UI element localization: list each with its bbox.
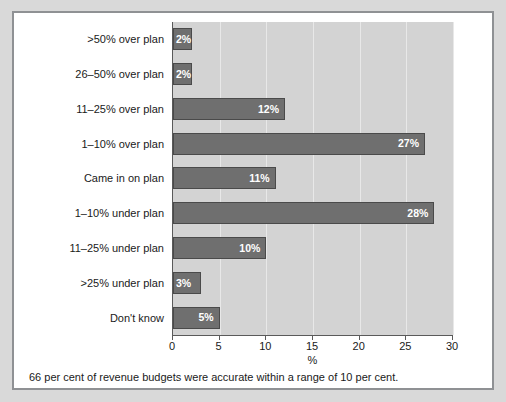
x-axis: 051015202530 xyxy=(172,336,453,356)
category-label: Came in on plan xyxy=(0,161,164,196)
x-tick-label: 0 xyxy=(169,340,175,352)
x-tick-label: 20 xyxy=(353,340,365,352)
category-label: >25% under plan xyxy=(0,265,164,300)
x-tick-label: 25 xyxy=(399,340,411,352)
x-tick-label: 15 xyxy=(306,340,318,352)
category-label: 11–25% over plan xyxy=(0,92,164,127)
x-tick-label: 10 xyxy=(259,340,271,352)
chart-region: 2%2%12%27%11%28%10%3%5% >50% over plan26… xyxy=(14,13,492,343)
figure-frame: 2%2%12%27%11%28%10%3%5% >50% over plan26… xyxy=(12,11,494,390)
category-label: 1–10% under plan xyxy=(0,196,164,231)
category-label: 1–10% over plan xyxy=(0,126,164,161)
x-axis-title: % xyxy=(172,354,453,366)
category-label: Don't know xyxy=(0,300,164,335)
category-label: >50% over plan xyxy=(0,22,164,57)
category-label: 11–25% under plan xyxy=(0,231,164,266)
x-tick-label: 5 xyxy=(216,340,222,352)
chart-caption: 66 per cent of revenue budgets were accu… xyxy=(29,371,398,383)
category-axis-labels: >50% over plan26–50% over plan11–25% ove… xyxy=(14,22,492,335)
x-tick-label: 30 xyxy=(446,340,458,352)
category-label: 26–50% over plan xyxy=(0,57,164,92)
